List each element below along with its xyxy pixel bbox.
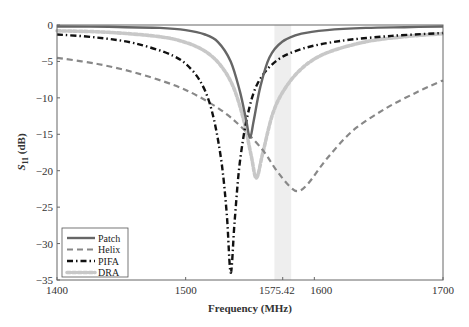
y-axis-ticks: 0−5−10−15−20−25−30−35	[36, 19, 60, 286]
x-axis-label: Frequency (MHz)	[208, 302, 292, 315]
x-tick-label: 1575.42	[259, 284, 295, 296]
y-axis-label-unit: (dB)	[15, 133, 28, 157]
legend-label-dra: DRA	[98, 267, 120, 278]
y-tick-label: −25	[36, 201, 54, 213]
series-dra-line	[57, 31, 443, 178]
y-tick-label: −15	[36, 128, 54, 140]
legend-label-helix: Helix	[98, 244, 120, 255]
y-axis-label-sub: 11	[21, 157, 30, 165]
x-tick-label: 1700	[432, 284, 455, 296]
y-axis-label: S11 (dB)	[15, 133, 30, 171]
series-helix-line	[57, 58, 443, 191]
x-tick-label: 1400	[46, 284, 69, 296]
x-tick-label: 1500	[175, 284, 198, 296]
series-patch-line	[57, 27, 443, 138]
y-tick-label: −30	[36, 238, 54, 250]
legend-label-pifa: PIFA	[98, 256, 120, 267]
x-tick-label: 1600	[310, 284, 333, 296]
svg-text:S11 (dB): S11 (dB)	[15, 133, 30, 171]
y-tick-label: −5	[41, 55, 53, 67]
y-tick-label: −10	[36, 92, 54, 104]
gps-band-highlight	[274, 25, 291, 280]
y-tick-label: 0	[48, 19, 54, 31]
s11-chart: 0−5−10−15−20−25−30−35 140015001575.42160…	[0, 0, 469, 327]
legend-label-patch: Patch	[98, 233, 120, 244]
legend: PatchHelixPIFADRA	[62, 228, 128, 278]
y-tick-label: −20	[36, 165, 54, 177]
band-rect	[274, 25, 291, 280]
